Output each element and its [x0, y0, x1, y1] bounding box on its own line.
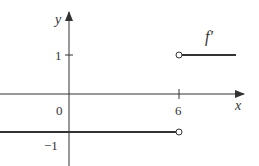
origin-label: 0 — [56, 103, 63, 118]
x-axis-label: x — [234, 98, 242, 113]
tick-label-y-1: 1 — [55, 48, 62, 63]
y-axis-label: y — [53, 12, 62, 27]
tick-label-y-neg1: −1 — [44, 138, 58, 153]
tick-label-x-6: 6 — [175, 103, 182, 118]
open-endpoint-upper — [176, 52, 182, 58]
function-label: f′ — [205, 28, 213, 46]
piecewise-graph: y 1 0 6 x −1 f′ — [0, 0, 259, 166]
open-endpoint-lower — [176, 129, 182, 135]
